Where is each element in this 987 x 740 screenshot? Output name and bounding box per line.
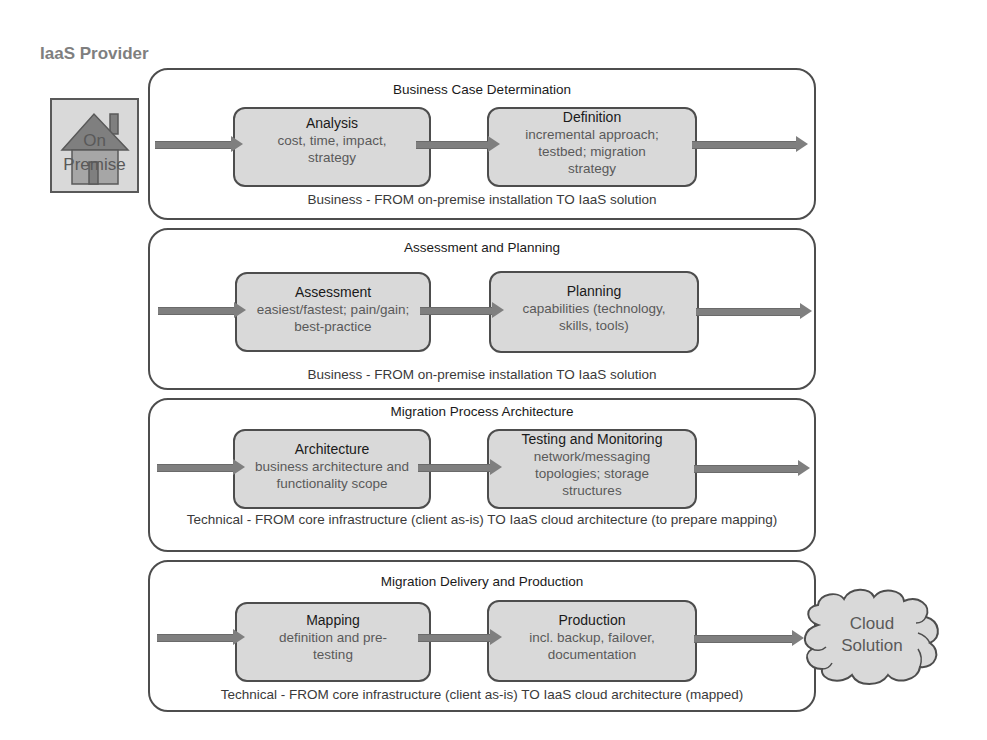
step-desc: easiest/fastest; pain/gain; best-practic… [237, 301, 429, 335]
arrow-right-icon [158, 305, 246, 315]
arrow-right-icon [696, 306, 812, 316]
step-title: Definition [489, 109, 695, 126]
phase-migration-architecture: Migration Process Architecture Architect… [148, 398, 816, 552]
step-assessment: Assessment easiest/fastest; pain/gain; b… [235, 272, 431, 352]
arrow-right-icon [157, 632, 245, 642]
step-production: Production incl. backup, failover, docum… [487, 600, 697, 682]
on-premise-label-line1: On [52, 128, 137, 154]
step-title: Assessment [237, 284, 429, 301]
step-title: Planning [491, 283, 697, 300]
step-title: Testing and Monitoring [489, 431, 695, 448]
phase-footer: Technical - FROM core infrastructure (cl… [150, 686, 814, 703]
step-desc: cost, time, impact, strategy [235, 132, 429, 166]
on-premise-node: On Premise [50, 98, 139, 193]
phase-footer: Business - FROM on-premise installation … [150, 191, 814, 208]
diagram-title: IaaS Provider [40, 44, 149, 64]
cloud-label-line1: Cloud [822, 613, 922, 635]
arrow-right-icon [418, 632, 502, 642]
phase-title: Assessment and Planning [150, 240, 814, 255]
phase-footer: Technical - FROM core infrastructure (cl… [150, 511, 814, 528]
arrow-right-icon [694, 463, 810, 473]
step-desc: incl. backup, failover, documentation [489, 629, 695, 663]
arrow-right-icon [692, 139, 808, 149]
phase-title: Migration Process Architecture [150, 404, 814, 419]
phase-footer: Business - FROM on-premise installation … [150, 366, 814, 383]
arrow-right-icon [694, 633, 804, 643]
step-desc: capabilities (technology, skills, tools) [491, 300, 697, 334]
step-mapping: Mapping definition and pre-testing [235, 602, 431, 682]
step-desc: definition and pre-testing [237, 629, 429, 663]
phase-title: Business Case Determination [150, 82, 814, 97]
step-title: Mapping [237, 612, 429, 629]
step-desc: network/messaging topologies; storage st… [489, 448, 695, 499]
phase-title: Migration Delivery and Production [150, 574, 814, 589]
arrow-right-icon [416, 139, 500, 149]
step-title: Production [489, 612, 695, 629]
step-desc: business architecture and functionality … [235, 458, 429, 492]
on-premise-label-line2: Premise [52, 152, 137, 178]
step-analysis: Analysis cost, time, impact, strategy [233, 107, 431, 187]
arrow-right-icon [157, 462, 245, 472]
arrow-right-icon [420, 305, 504, 315]
step-definition: Definition incremental approach; testbed… [487, 107, 697, 187]
cloud-solution-node: Cloud Solution [800, 585, 945, 690]
arrow-right-icon [418, 462, 502, 472]
step-planning: Planning capabilities (technology, skill… [489, 271, 699, 353]
step-architecture: Architecture business architecture and f… [233, 429, 431, 509]
step-title: Analysis [235, 115, 429, 132]
cloud-label-line2: Solution [822, 635, 922, 657]
arrow-right-icon [155, 139, 243, 149]
step-title: Architecture [235, 441, 429, 458]
step-testing-monitoring: Testing and Monitoring network/messaging… [487, 429, 697, 509]
step-desc: incremental approach; testbed; migration… [489, 126, 695, 177]
